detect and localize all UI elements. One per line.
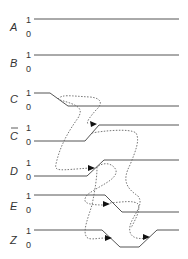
signal-c-waveform: [34, 93, 179, 106]
signal-z-low-label: 0: [26, 240, 31, 250]
signal-c-bar-low-label: 0: [26, 137, 31, 147]
signal-d-name: D: [10, 165, 18, 177]
signal-b-name: B: [10, 57, 17, 69]
arrowhead-cbar: [90, 121, 97, 127]
signal-c-high-label: 1: [26, 88, 31, 98]
arrow-e-to-z: [110, 202, 139, 228]
signal-c-name: C: [10, 93, 18, 105]
timing-diagram: A 1 0 B 1 0 C 1 0 C 1 0 D 1 0 E 1 0: [0, 0, 188, 259]
signal-a-high-label: 1: [26, 15, 31, 25]
arrow-c-to-cbar: [58, 96, 100, 124]
causality-arrows: [56, 96, 150, 241]
signal-a-low-label: 0: [26, 29, 31, 39]
signal-b-low-label: 0: [26, 64, 31, 74]
signal-a-name: A: [9, 21, 17, 33]
signal-c-bar-name: C: [10, 130, 18, 142]
arrowhead-e: [103, 201, 110, 207]
signal-b: B 1 0: [10, 50, 179, 74]
arrow-d-to-z: [85, 167, 106, 239]
signal-b-high-label: 1: [26, 50, 31, 60]
signal-d: D 1 0: [10, 158, 179, 182]
signal-z-name: Z: [9, 234, 18, 246]
signal-e-name: E: [10, 200, 18, 212]
signal-d-high-label: 1: [26, 158, 31, 168]
signal-c-bar: C 1 0: [10, 123, 179, 147]
signal-c: C 1 0: [10, 88, 179, 112]
arrow-cbar-to-z: [92, 130, 146, 238]
signal-c-bar-waveform: [34, 125, 179, 141]
signal-e-high-label: 1: [26, 191, 31, 201]
signal-c-bar-high-label: 1: [26, 123, 31, 133]
signal-z: Z 1 0: [9, 226, 179, 250]
signal-a: A 1 0: [9, 15, 179, 39]
signal-d-waveform: [34, 160, 179, 176]
signal-d-low-label: 0: [26, 172, 31, 182]
signal-z-high-label: 1: [26, 226, 31, 236]
arrowhead-z-rise: [143, 234, 150, 240]
arrow-c-to-d: [56, 100, 90, 170]
signal-e: E 1 0: [10, 191, 179, 215]
signal-c-low-label: 0: [26, 102, 31, 112]
signal-e-low-label: 0: [26, 205, 31, 215]
